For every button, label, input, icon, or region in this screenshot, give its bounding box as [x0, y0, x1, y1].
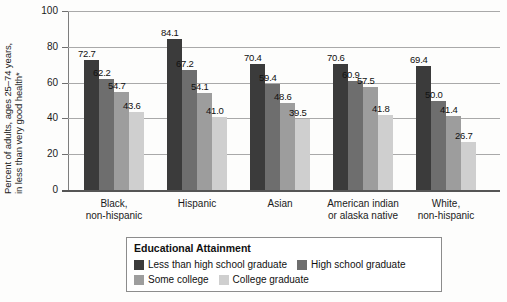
legend-item-college-graduate[interactable]: College graduate [219, 274, 309, 285]
bar [295, 119, 310, 190]
y-axis-tick-label: 60 [32, 77, 58, 88]
plot-area: 72.762.254.743.684.167.254.141.070.459.4… [68, 11, 500, 190]
legend-label: Some college [148, 274, 209, 285]
legend-swatch-icon [219, 275, 229, 285]
bar [250, 64, 265, 190]
bar-group: 70.459.448.639.5 [250, 11, 310, 190]
legend-swatch-icon [134, 275, 144, 285]
category-label-line: non-hispanic [386, 210, 506, 222]
bar [461, 142, 476, 190]
bar [348, 81, 363, 190]
bar-group: 84.167.254.141.0 [167, 11, 227, 190]
legend-row-2: Some college College graduate [134, 272, 434, 287]
bar [84, 60, 99, 190]
bar-value-label: 41.8 [372, 103, 390, 114]
bar [446, 116, 461, 190]
bar-value-label: 72.7 [78, 48, 96, 59]
bar-value-label: 39.5 [289, 107, 307, 118]
bar-value-label: 50.0 [425, 89, 443, 100]
legend-item-high-school-graduate[interactable]: High school graduate [297, 259, 406, 270]
bar-value-label: 43.6 [123, 100, 141, 111]
category-label-line: non-hispanic [54, 210, 174, 222]
bar-value-label: 70.4 [244, 52, 262, 63]
y-axis-tick-label: 80 [32, 41, 58, 52]
bar [212, 117, 227, 190]
x-axis-category-label: White,non-hispanic [386, 198, 506, 221]
legend-title: Educational Attainment [134, 242, 434, 254]
bar-value-label: 59.4 [259, 72, 277, 83]
y-axis-title-line-2: in less than very good health* [13, 72, 24, 194]
bar [378, 115, 393, 190]
bar-value-label: 70.6 [327, 52, 345, 63]
bar-value-label: 69.4 [410, 54, 428, 65]
y-axis-title-line-1: Percent of adults, ages 25–74 years, [2, 43, 13, 194]
bar-value-label: 84.1 [161, 27, 179, 38]
y-axis-tick-label: 0 [32, 184, 58, 195]
x-axis-line [62, 190, 500, 192]
legend-swatch-icon [134, 260, 144, 270]
bar-value-label: 62.2 [93, 67, 111, 78]
legend-swatch-icon [297, 260, 307, 270]
bar [99, 79, 114, 190]
bar [416, 66, 431, 190]
legend-label: High school graduate [311, 259, 406, 270]
bar-value-label: 48.6 [274, 91, 292, 102]
chart-figure: Percent of adults, ages 25–74 years, in … [0, 0, 507, 302]
bar-value-label: 57.5 [357, 75, 375, 86]
bar-value-label: 54.1 [191, 81, 209, 92]
bar-value-label: 26.7 [455, 130, 473, 141]
bar-value-label: 41.4 [440, 104, 458, 115]
y-axis-title: Percent of adults, ages 25–74 years, in … [0, 0, 34, 200]
legend-item-less-than-high-school-graduate[interactable]: Less than high school graduate [134, 259, 287, 270]
bar-group: 70.660.957.541.8 [333, 11, 393, 190]
bar-value-label: 67.2 [176, 58, 194, 69]
legend-row-1: Less than high school graduate High scho… [134, 257, 434, 272]
bar-group: 69.450.041.426.7 [416, 11, 476, 190]
y-axis-tick-label: 20 [32, 148, 58, 159]
bar-group: 72.762.254.743.6 [84, 11, 144, 190]
bar-value-label: 41.0 [206, 105, 224, 116]
legend-label: College graduate [233, 274, 309, 285]
y-axis-tick-label: 100 [32, 5, 58, 16]
category-label-line: White, [386, 198, 506, 210]
legend: Educational Attainment Less than high sc… [126, 237, 442, 292]
bar [129, 112, 144, 190]
bar-value-label: 54.7 [108, 80, 126, 91]
legend-label: Less than high school graduate [148, 259, 287, 270]
y-axis-tick-label: 40 [32, 112, 58, 123]
legend-item-some-college[interactable]: Some college [134, 274, 209, 285]
bar [333, 64, 348, 190]
